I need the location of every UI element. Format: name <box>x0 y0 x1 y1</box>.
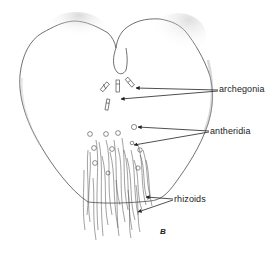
label-antheridia: antheridia <box>210 127 251 136</box>
panel-letter: B <box>160 228 166 236</box>
label-rhizoids: rhizoids <box>174 195 206 204</box>
label-archegonia: archegonia <box>219 85 265 94</box>
